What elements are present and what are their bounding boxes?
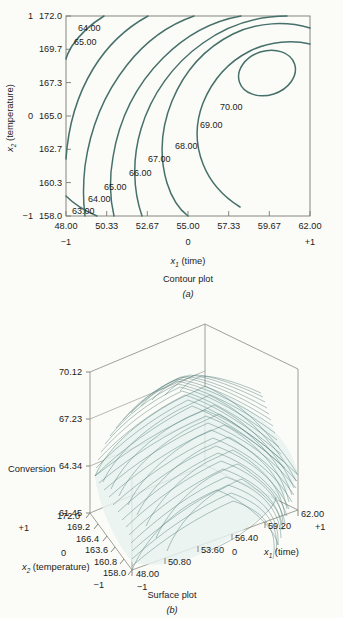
contour-curve-70 [233,43,302,103]
contour-label-67: 67.00 [148,154,171,164]
contour-xcoded-minus1: −1 [61,237,71,247]
contour-label-64-top: 64.00 [78,23,101,33]
surface-plot-panel-tag: (b) [166,605,177,615]
contour-lines [66,16,310,216]
surface-x1-axis-title: x1 (time) [263,546,299,559]
contour-ytick-172: 172.0 [39,11,62,21]
contour-xtick-57: 57.33 [217,221,240,231]
contour-label-65-bottom: 65.00 [104,182,127,192]
contour-ycoded-minus1: −1 [23,211,33,221]
contour-ytick-158: 158.0 [39,211,62,221]
surface-z-axis-title: Conversion [8,463,55,474]
contour-xtick-48: 48.00 [55,221,78,231]
svg-text:x2 (temperature): x2 (temperature) [4,84,17,153]
contour-ycoded-zero: 0 [28,111,33,121]
surface-x2coded-zero: 0 [61,548,66,558]
surface-x1tick-62: 62.00 [301,509,324,519]
surface-x2tick-160: 160.8 [94,557,117,567]
surface-x2-axis-title-rest: (temperature) [33,561,90,572]
contour-label-69: 69.00 [200,120,223,130]
surface-ztick-67: 67.23 [59,414,82,424]
surface-x2coded-plus1: +1 [19,523,29,533]
contour-plot-figure: 64.00 65.00 70.00 69.00 68.00 67.00 66.0… [0,0,343,300]
surface-x2tick-158: 158.0 [103,568,126,578]
surface-ztick-70: 70.12 [59,367,82,377]
surface-plot-svg: 70.12 67.23 64.34 61.45 Conversion [0,300,343,618]
contour-x-axis-title-rest: (time) [181,255,205,266]
surface-x1coded-plus1: +1 [315,522,325,532]
contour-label-63: 63.00 [72,206,95,216]
svg-text:x1 (time): x1 (time) [170,255,206,268]
surface-x1tick-53: 53.60 [201,545,224,555]
surface-x2tick-166: 166.4 [76,534,99,544]
contour-xtick-52: 52.67 [136,221,159,231]
contour-xcoded-zero: 0 [185,237,190,247]
surface-x2tick-172: 172.0 [57,511,80,521]
contour-ytick-160: 160.3 [39,178,62,188]
surface-x2coded-minus1: −1 [94,580,104,590]
contour-label-65-top: 65.00 [74,37,97,47]
surface-x1tick-50: 50.80 [168,557,191,567]
contour-ytick-165: 165.0 [39,111,62,121]
contour-xtick-50: 50.33 [95,221,118,231]
contour-plot-caption: Contour plot [163,274,213,284]
surface-plot-figure: 70.12 67.23 64.34 61.45 Conversion [0,300,343,618]
contour-xtick-55: 55.00 [177,221,200,231]
contour-label-70: 70.00 [220,102,243,112]
svg-text:x2 (temperature): x2 (temperature) [21,561,90,574]
contour-y-tickmarks [66,16,71,216]
contour-label-66: 66.00 [129,168,152,178]
contour-y-axis-title: x2 (temperature) [4,84,17,153]
contour-ytick-167: 167.3 [39,78,62,88]
contour-plot-frame [66,16,310,216]
surface-ztick-64: 64.34 [59,461,82,471]
contour-plot-svg: 64.00 65.00 70.00 69.00 68.00 67.00 66.0… [0,0,343,300]
contour-ytick-162: 162.7 [39,144,62,154]
contour-plot-panel-tag: (a) [182,289,193,299]
contour-ycoded-plus1: 1 [28,11,33,21]
surface-x2-axis-title: x2 (temperature) [21,561,90,574]
contour-label-68: 68.00 [175,141,198,151]
contour-xtick-62: 62.00 [299,221,322,231]
surface-x1-axis-title-rest: (time) [275,546,299,557]
surface-x1tick-56: 56.40 [235,533,258,543]
contour-xcoded-plus1: +1 [305,237,315,247]
surface-x1tick-48: 48.00 [136,569,159,579]
svg-text:x1 (time): x1 (time) [263,546,299,559]
surface-x2tick-169: 169.2 [67,522,90,532]
surface-z-tickmarks [86,372,90,513]
surface-x1tick-59: 59.20 [268,521,291,531]
contour-curve-66 [110,16,241,216]
contour-x-axis-title: x1 (time) [170,255,206,268]
contour-label-64-bottom: 64.00 [88,194,111,204]
contour-xtick-59: 59.67 [258,221,281,231]
contour-ytick-169: 169.7 [39,44,62,54]
surface-x1coded-zero: 0 [232,547,237,557]
contour-y-axis-title-rest: (temperature) [4,84,15,141]
surface-plot-caption: Surface plot [147,590,196,600]
surface-x1coded-minus1: −1 [137,582,147,592]
surface-x2tick-163: 163.6 [85,545,108,555]
contour-curve-68 [162,24,310,216]
